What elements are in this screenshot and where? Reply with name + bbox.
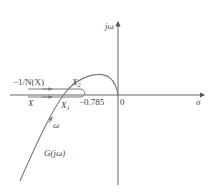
intersection-x1-label: X1 [60,100,70,111]
origin-label: 0 [120,97,125,107]
g-jw-label: G(jω) [44,148,65,158]
turning-point-label: −0.785 [79,97,105,107]
describing-function-label: −1/N(X) [13,77,44,87]
x-direction-label: X [27,98,34,108]
omega-label: ω [53,120,59,130]
negative-inverse-describing-function-locus [28,89,85,97]
g-jw-curve [20,74,118,181]
x-axis-label: σ [196,97,201,107]
intersection-x2-label: X2 [71,77,82,88]
y-axis-label: jω [104,21,114,31]
nyquist-diagram: jω 0 σ −1/N(X) X −0.785 X2 X1 ω G(jω) [0,0,215,195]
